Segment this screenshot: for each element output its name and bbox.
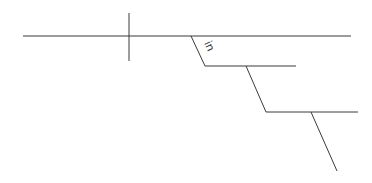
sentence-diagram: in [0, 0, 372, 183]
preposition-label: in [201, 39, 217, 54]
modifier-slant-3 [311, 112, 337, 171]
prepositional-slant-1 [191, 36, 205, 66]
modifier-slant-2 [246, 66, 266, 112]
